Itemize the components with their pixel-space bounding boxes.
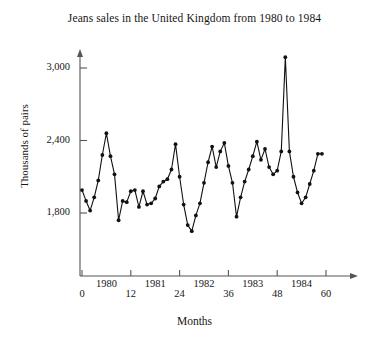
data-point bbox=[210, 145, 214, 149]
x-axis-tick-label: 60 bbox=[311, 288, 341, 299]
data-point bbox=[300, 201, 304, 205]
data-point bbox=[153, 197, 157, 201]
data-point bbox=[170, 168, 174, 172]
data-point bbox=[125, 200, 129, 204]
x-axis-tick-label: 24 bbox=[165, 288, 195, 299]
x-axis-arrow bbox=[350, 273, 358, 279]
data-point bbox=[198, 201, 202, 205]
data-point bbox=[206, 160, 210, 164]
data-point bbox=[194, 214, 198, 218]
data-point bbox=[166, 177, 170, 181]
y-axis-tick-label: 1,800 bbox=[24, 206, 70, 217]
x-axis-tick-label: 12 bbox=[116, 288, 146, 299]
x-axis-tick-label: 0 bbox=[67, 288, 97, 299]
data-point bbox=[214, 165, 218, 169]
data-point bbox=[271, 172, 275, 176]
data-point bbox=[288, 149, 292, 153]
data-point bbox=[80, 188, 84, 192]
data-point bbox=[247, 168, 251, 172]
data-point bbox=[161, 180, 165, 184]
data-point bbox=[121, 199, 125, 203]
x-axis-year-label: 1984 bbox=[282, 278, 322, 289]
data-point bbox=[243, 180, 247, 184]
x-axis-tick-label: 36 bbox=[213, 288, 243, 299]
data-point bbox=[292, 175, 296, 179]
data-point bbox=[320, 152, 324, 156]
data-point bbox=[308, 182, 312, 186]
data-point bbox=[96, 178, 100, 182]
data-point bbox=[109, 154, 113, 158]
data-point bbox=[231, 181, 235, 185]
data-point bbox=[174, 142, 178, 146]
data-point bbox=[239, 195, 243, 199]
data-point bbox=[251, 154, 255, 158]
data-point bbox=[283, 55, 287, 59]
data-point bbox=[105, 131, 109, 135]
data-point bbox=[133, 188, 137, 192]
data-point bbox=[222, 141, 226, 145]
y-axis-arrow bbox=[77, 49, 83, 57]
x-axis-year-label: 1983 bbox=[233, 278, 273, 289]
data-point bbox=[312, 169, 316, 173]
data-point bbox=[190, 229, 194, 233]
y-axis-tick-label: 3,000 bbox=[24, 61, 70, 72]
data-point bbox=[263, 147, 267, 151]
data-line bbox=[82, 57, 322, 231]
x-axis-year-label: 1980 bbox=[86, 278, 126, 289]
data-point bbox=[84, 199, 88, 203]
data-point bbox=[141, 189, 145, 193]
data-point bbox=[178, 175, 182, 179]
chart-container: Jeans sales in the United Kingdom from 1… bbox=[0, 0, 389, 343]
data-point bbox=[279, 149, 283, 153]
data-point bbox=[92, 195, 96, 199]
data-point bbox=[218, 149, 222, 153]
data-point bbox=[182, 203, 186, 207]
data-point bbox=[255, 140, 259, 144]
data-point bbox=[129, 189, 133, 193]
data-point bbox=[267, 165, 271, 169]
x-axis-year-label: 1981 bbox=[135, 278, 175, 289]
data-point bbox=[117, 218, 121, 222]
x-axis-year-label: 1982 bbox=[184, 278, 224, 289]
data-point bbox=[259, 158, 263, 162]
data-point bbox=[275, 169, 279, 173]
y-axis-tick-label: 2,400 bbox=[24, 134, 70, 145]
x-axis-tick-label: 48 bbox=[262, 288, 292, 299]
data-point bbox=[100, 153, 104, 157]
data-point bbox=[235, 215, 239, 219]
data-point bbox=[137, 205, 141, 209]
data-point bbox=[304, 195, 308, 199]
data-point bbox=[316, 152, 320, 156]
data-point bbox=[113, 172, 117, 176]
data-point bbox=[88, 209, 92, 213]
data-point bbox=[227, 164, 231, 168]
data-point bbox=[202, 181, 206, 185]
data-point bbox=[186, 223, 190, 227]
data-point bbox=[157, 185, 161, 189]
data-point bbox=[145, 203, 149, 207]
data-point bbox=[149, 201, 153, 205]
data-point bbox=[296, 191, 300, 195]
